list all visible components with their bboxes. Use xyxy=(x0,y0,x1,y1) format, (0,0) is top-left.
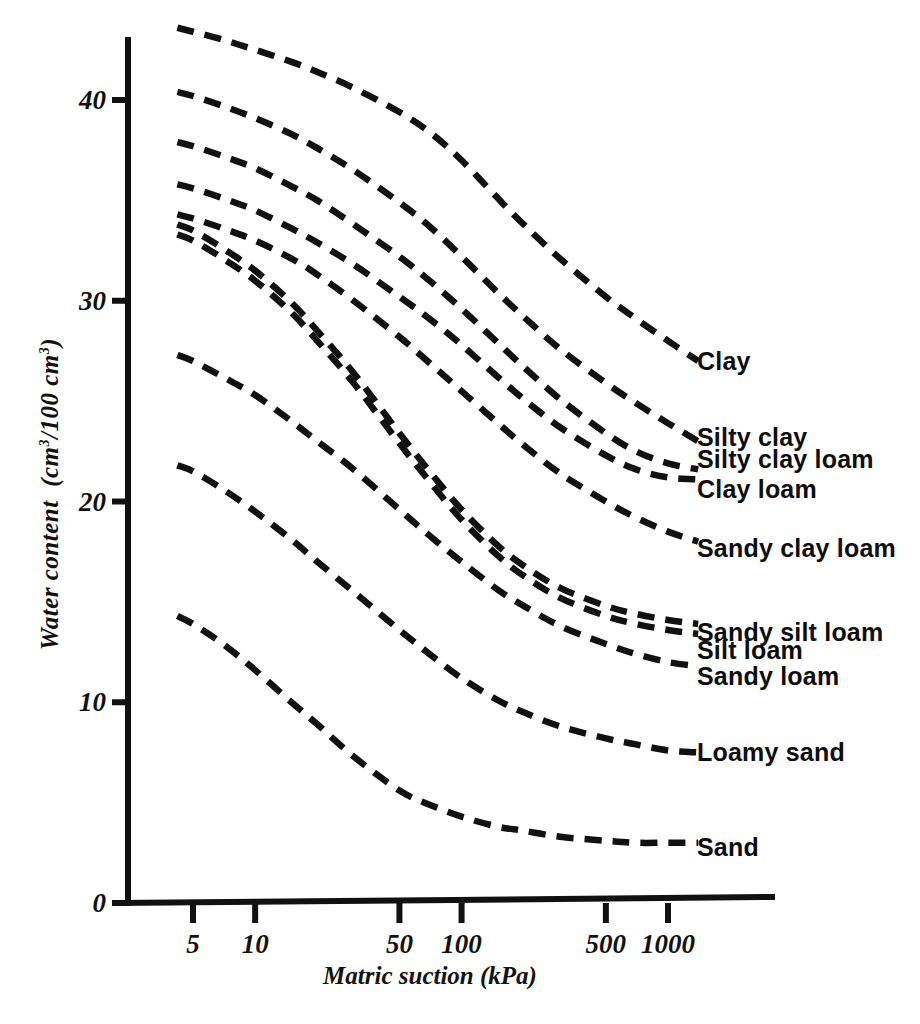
series-label-sandy-loam: Sandy loam xyxy=(697,662,839,691)
x-tick-label-100: 100 xyxy=(441,929,482,960)
curve-silty-clay xyxy=(177,92,698,441)
x-axis-line xyxy=(116,897,772,903)
x-tick-label-500: 500 xyxy=(586,929,627,960)
curve-clay xyxy=(177,28,698,361)
series-label-loamy-sand: Loamy sand xyxy=(697,738,845,767)
soil-water-retention-plot xyxy=(0,0,920,1024)
curve-silt-loam xyxy=(177,235,698,635)
y-tick-label-40: 40 xyxy=(79,85,106,116)
y-tick-label-10: 10 xyxy=(79,687,106,718)
x-tick-label-5: 5 xyxy=(186,929,200,960)
y-axis-title-text: Water content (cm3/100 cm3) xyxy=(36,338,63,650)
x-axis-title: Matric suction (kPa) xyxy=(150,962,710,990)
x-tick-label-10: 10 xyxy=(242,929,269,960)
curve-clay-loam xyxy=(177,184,698,479)
series-label-silt-loam: Silt loam xyxy=(697,636,803,665)
series-label-clay-loam: Clay loam xyxy=(697,475,817,504)
x-tick-label-1000: 1000 xyxy=(641,929,695,960)
y-tick-label-0: 0 xyxy=(93,888,107,919)
series-label-sand: Sand xyxy=(697,832,759,861)
x-tick-label-50: 50 xyxy=(386,929,413,960)
y-tick-label-20: 20 xyxy=(79,486,106,517)
curves-group xyxy=(177,28,698,843)
chart-figure: Water content (cm3/100 cm3) Matric sucti… xyxy=(0,0,920,1024)
y-axis-title: Water content (cm3/100 cm3) xyxy=(36,284,64,704)
series-label-sandy-clay-loam: Sandy clay loam xyxy=(697,533,896,562)
y-tick-label-30: 30 xyxy=(79,285,106,316)
series-label-silty-clay-loam: Silty clay loam xyxy=(697,445,874,474)
series-label-clay: Clay xyxy=(697,346,751,375)
